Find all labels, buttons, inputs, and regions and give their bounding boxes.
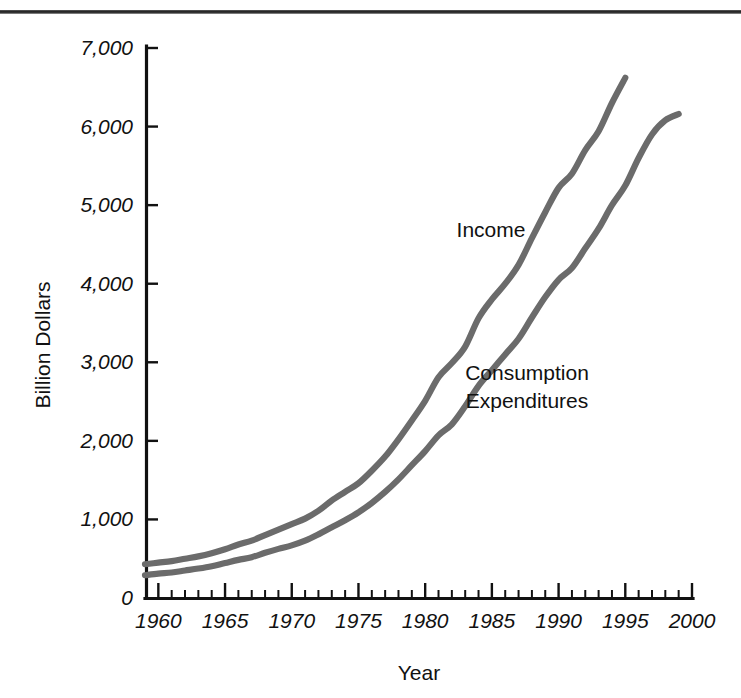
x-tick-label-1990: 1990 <box>535 609 582 632</box>
y-tick-label-5000: 5,000 <box>80 193 133 216</box>
x-tick-label-2000: 2000 <box>668 609 716 632</box>
y-tick-label-1000: 1,000 <box>80 507 133 530</box>
y-tick-label-6000: 6,000 <box>80 115 133 138</box>
chart-figure: 01,0002,0003,0004,0005,0006,0007,000 196… <box>0 0 741 698</box>
y-axis-title: Billion Dollars <box>31 281 54 408</box>
x-tick-label-1985: 1985 <box>469 609 516 632</box>
y-tick-label-4000: 4,000 <box>80 272 133 295</box>
x-axis-title: Year <box>398 661 440 684</box>
series-annotation-1: Consumption <box>465 361 589 384</box>
x-axis-ticks <box>158 583 692 598</box>
x-tick-label-1965: 1965 <box>202 609 249 632</box>
series-annotation-2: Expenditures <box>466 389 589 412</box>
series-paths <box>145 78 679 575</box>
series-line-consumption-expenditures <box>145 114 679 575</box>
series-annotation-0: Income <box>457 218 526 241</box>
x-tick-label-1960: 1960 <box>135 609 182 632</box>
line-chart-plot: 01,0002,0003,0004,0005,0006,0007,000 196… <box>0 0 741 698</box>
y-tick-label-0: 0 <box>121 586 133 609</box>
y-tick-label-7000: 7,000 <box>80 36 133 59</box>
y-tick-label-3000: 3,000 <box>80 350 133 373</box>
series-annotations: IncomeConsumptionExpenditures <box>457 218 589 412</box>
x-tick-label-1995: 1995 <box>602 609 649 632</box>
y-tick-label-2000: 2,000 <box>79 429 133 452</box>
x-axis-tick-labels: 196019651970197519801985199019952000 <box>135 609 716 632</box>
x-tick-label-1970: 1970 <box>268 609 315 632</box>
x-tick-label-1980: 1980 <box>402 609 449 632</box>
y-axis-tick-labels: 01,0002,0003,0004,0005,0006,0007,000 <box>79 36 133 609</box>
x-tick-label-1975: 1975 <box>335 609 382 632</box>
axes-group <box>145 46 693 599</box>
